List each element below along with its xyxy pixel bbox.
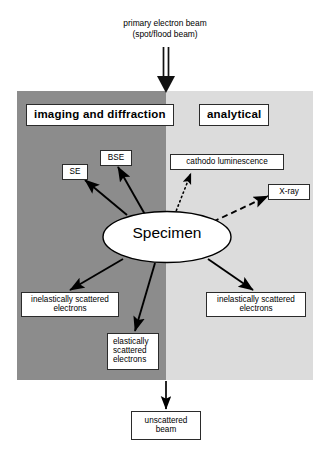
connector-cathodoluminescence (173, 173, 191, 219)
label-inelastically-scattered-electrons-right: inelastically scattered electrons (206, 292, 306, 317)
connector-inelastic-left (70, 259, 123, 290)
label-elastically-scattered-electrons: elastically scattered electrons (107, 333, 159, 370)
header-analytical: analytical (199, 104, 269, 126)
label-xray: X-ray (268, 184, 310, 200)
diagram-canvas: primary electron beam (spot/flood beam) … (0, 0, 331, 460)
specimen-label: Specimen (103, 224, 231, 242)
label-cathodoluminescence: cathodo luminescence (170, 154, 284, 170)
connector-se (85, 180, 127, 215)
header-imaging-and-diffraction: imaging and diffraction (26, 104, 174, 126)
connector-inelastic-right (208, 259, 253, 290)
primary-beam-arrow (157, 47, 175, 93)
label-se: SE (62, 164, 88, 180)
connector-xray (204, 196, 268, 226)
connector-elastic (135, 263, 155, 331)
label-bse: BSE (100, 150, 132, 166)
label-unscattered-beam: unscattered beam (131, 411, 201, 440)
primary-beam-caption: primary electron beam (spot/flood beam) (95, 18, 235, 40)
label-inelastically-scattered-electrons-left: inelastically scattered electrons (21, 292, 119, 317)
